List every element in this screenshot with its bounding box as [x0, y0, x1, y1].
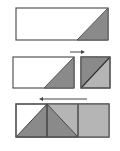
step-2 — [13, 50, 110, 88]
decomposition-diagram — [0, 0, 120, 151]
arrowhead-right-icon — [81, 50, 85, 54]
step-3 — [16, 97, 109, 137]
arrowhead-left-icon — [39, 97, 43, 101]
step3-light-square — [78, 104, 109, 137]
step-1 — [16, 8, 108, 40]
